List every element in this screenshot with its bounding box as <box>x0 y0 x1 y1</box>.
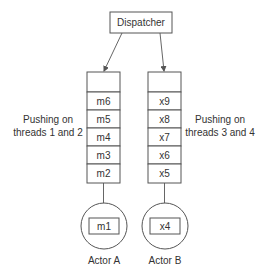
actor-b-label: Actor B <box>149 255 182 266</box>
actor-b-current-message: x4 <box>160 221 171 232</box>
queue-cell: m3 <box>97 150 111 161</box>
queue-cell: m5 <box>97 114 111 125</box>
queue-b-side-label-line2: threads 3 and 4 <box>185 127 255 138</box>
queue-cell: x6 <box>159 150 170 161</box>
mailbox-queue-b: x9 x8 x7 x6 x5 <box>148 72 181 183</box>
actor-a: m1 Actor A <box>81 203 127 266</box>
queue-cell: m6 <box>97 96 111 107</box>
queue-cell: x9 <box>159 96 170 107</box>
queue-cell: x7 <box>159 132 170 143</box>
actor-a-current-message: m1 <box>97 221 111 232</box>
queue-cell: x5 <box>159 168 170 179</box>
queue-b-side-label-line1: Pushing on <box>195 114 245 125</box>
queue-cell: x8 <box>159 114 170 125</box>
queue-cell: m4 <box>97 132 111 143</box>
actor-a-label: Actor A <box>88 255 121 266</box>
actor-b: x4 Actor B <box>142 203 188 266</box>
queue-a-side-label-line1: Pushing on <box>23 114 73 125</box>
mailbox-queue-a: m6 m5 m4 m3 m2 <box>87 72 120 183</box>
dispatcher-node: Dispatcher <box>110 12 172 33</box>
dispatch-arrow-b <box>160 33 164 71</box>
dispatch-arrow-a <box>104 33 122 71</box>
dispatcher-label: Dispatcher <box>117 17 165 28</box>
queue-a-side-label-line2: threads 1 and 2 <box>13 127 83 138</box>
dispatcher-diagram: Dispatcher m6 m5 m4 m3 m2 x9 x8 x7 x6 x5… <box>0 0 269 276</box>
queue-cell: m2 <box>97 168 111 179</box>
